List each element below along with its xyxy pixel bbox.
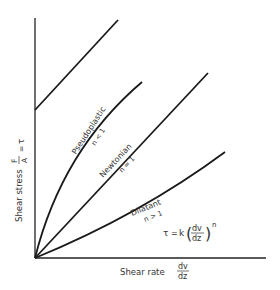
y-axis-fraction-den: A [20, 157, 29, 163]
bingham-line [35, 20, 118, 110]
y-axis-equals: = [17, 146, 26, 152]
y-axis-tau: τ [16, 139, 26, 144]
formula-den: dz [192, 234, 201, 243]
formula-rparen: ) [205, 224, 211, 243]
formula-exp: n [212, 221, 216, 229]
formula-k: k [179, 228, 185, 238]
rheology-diagram: Pseudoplastic n < 1 Newtonian n = 1 Dila… [0, 0, 280, 290]
x-axis-fraction-den: dz [178, 272, 187, 281]
y-axis-label-text: Shear stress [14, 169, 24, 222]
formula-num: dv [192, 224, 202, 233]
x-axis-label: Shear rate dv dz [120, 262, 189, 281]
x-axis-label-text: Shear rate [120, 267, 165, 277]
y-axis-fraction-num: F [10, 159, 19, 163]
power-law-formula: τ = k ( dv dz ) n [163, 221, 216, 243]
y-axis-label: Shear stress F A = τ [10, 139, 29, 222]
formula-equals: = [171, 229, 178, 238]
x-axis-fraction-num: dv [178, 262, 188, 271]
formula-tau: τ [163, 228, 168, 238]
